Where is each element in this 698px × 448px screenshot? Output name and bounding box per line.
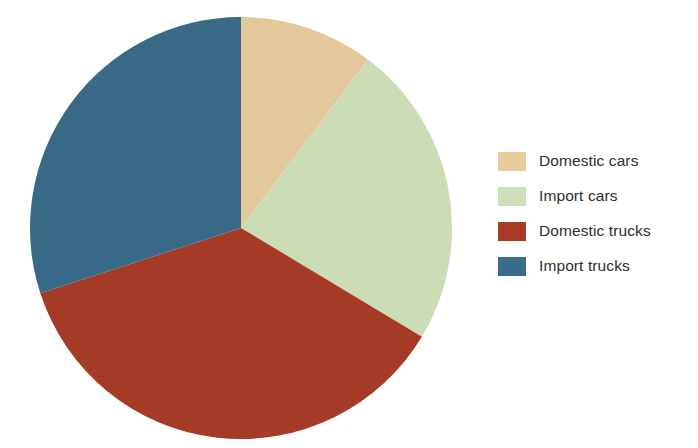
legend-swatch-domestic-trucks [498, 222, 526, 241]
pie-slice-group [30, 17, 452, 439]
legend-item[interactable]: Domestic trucks [498, 220, 694, 242]
legend-swatch-import-cars [498, 187, 526, 206]
pie-chart-figure: Domestic cars Import cars Domestic truck… [0, 0, 698, 448]
chart-legend: Domestic cars Import cars Domestic truck… [498, 150, 694, 277]
pie-chart-svg [0, 0, 470, 448]
legend-item[interactable]: Import cars [498, 185, 694, 207]
legend-label-import-cars: Import cars [539, 188, 618, 204]
legend-label-domestic-cars: Domestic cars [539, 153, 638, 169]
legend-label-domestic-trucks: Domestic trucks [539, 223, 651, 239]
legend-swatch-import-trucks [498, 257, 526, 276]
pie-chart-area [0, 0, 470, 448]
legend-swatch-domestic-cars [498, 152, 526, 171]
legend-item[interactable]: Import trucks [498, 255, 694, 277]
legend-label-import-trucks: Import trucks [539, 258, 630, 274]
legend-item[interactable]: Domestic cars [498, 150, 694, 172]
